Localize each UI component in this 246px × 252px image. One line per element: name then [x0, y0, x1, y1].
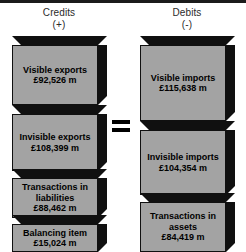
block-name: Balancing item	[23, 228, 87, 239]
block-label: Balancing item £15,024 m	[20, 228, 90, 249]
block-top-face	[140, 36, 235, 45]
equals-bar-bottom	[112, 128, 130, 132]
credits-header: Credits (+)	[0, 7, 118, 30]
block-amount: £104,354 m	[147, 163, 219, 174]
block-name: Visible imports	[151, 73, 215, 84]
block-label: Invisible imports £104,354 m	[144, 152, 222, 173]
block-amount: £115,638 m	[151, 83, 215, 94]
block-label: Transactions in assets £84,419 m	[141, 211, 225, 243]
block-top-face	[12, 36, 107, 45]
block-front-face: Visible imports £115,638 m	[140, 45, 226, 121]
block-name: Transactions in liabilities	[16, 182, 94, 203]
block-name: Transactions in assets	[144, 211, 222, 232]
block-front-face: Visible exports £92,526 m	[12, 45, 98, 105]
block-amount: £84,419 m	[144, 232, 222, 243]
balance-of-payments-diagram: Credits (+) Visible exports £92,526 m	[0, 3, 246, 249]
block-front-face: Invisible exports £108,399 m	[12, 114, 98, 171]
block-amount: £88,462 m	[16, 203, 94, 214]
equals-bar-top	[112, 120, 130, 124]
block-front-face: Balancing item £15,024 m	[12, 224, 98, 252]
block-name: Invisible exports	[19, 132, 90, 143]
credits-sign: (+)	[0, 19, 118, 30]
block-front-face: Invisible imports £104,354 m	[140, 130, 226, 195]
block-top-face	[12, 215, 107, 224]
block-label: Visible exports £92,526 m	[20, 65, 90, 86]
block-amount: £108,399 m	[19, 143, 90, 154]
block-label: Visible imports £115,638 m	[148, 73, 218, 94]
block-top-face	[12, 169, 107, 178]
block-amount: £92,526 m	[23, 75, 87, 86]
block-name: Visible exports	[23, 65, 87, 76]
credits-title: Credits	[0, 7, 118, 18]
block-front-face: Transactions in liabilities £88,462 m	[12, 178, 98, 218]
block-amount: £15,024 m	[23, 238, 87, 249]
debits-header: Debits (-)	[128, 7, 246, 30]
debits-sign: (-)	[128, 19, 246, 30]
block-name: Invisible imports	[147, 152, 219, 163]
block-top-face	[140, 193, 235, 202]
block-top-face	[12, 105, 107, 114]
block-front-face: Transactions in assets £84,419 m	[140, 202, 226, 252]
block-top-face	[140, 121, 235, 130]
block-label: Invisible exports £108,399 m	[16, 132, 93, 153]
equals-operator	[112, 120, 132, 136]
block-label: Transactions in liabilities £88,462 m	[13, 182, 97, 214]
debits-title: Debits	[128, 7, 246, 18]
